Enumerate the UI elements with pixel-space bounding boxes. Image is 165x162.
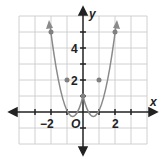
y-axis-label: y	[88, 7, 97, 21]
point-1-2	[97, 78, 102, 83]
point-neg2-5	[49, 30, 54, 35]
y-tick-label-4: 4	[71, 42, 78, 56]
point-2-5	[113, 30, 118, 35]
x-tick-label-neg2: −2	[40, 117, 54, 131]
y-tick-label-2: 2	[71, 74, 78, 88]
point-neg1-2	[65, 78, 70, 83]
origin-label: O	[71, 117, 81, 131]
x-tick-label-2: 2	[112, 117, 119, 131]
axes	[9, 7, 157, 155]
point-0-1	[81, 94, 86, 99]
parabola-graph: y x O −2 2 2 4	[0, 0, 165, 162]
x-axis-label: x	[149, 95, 158, 109]
